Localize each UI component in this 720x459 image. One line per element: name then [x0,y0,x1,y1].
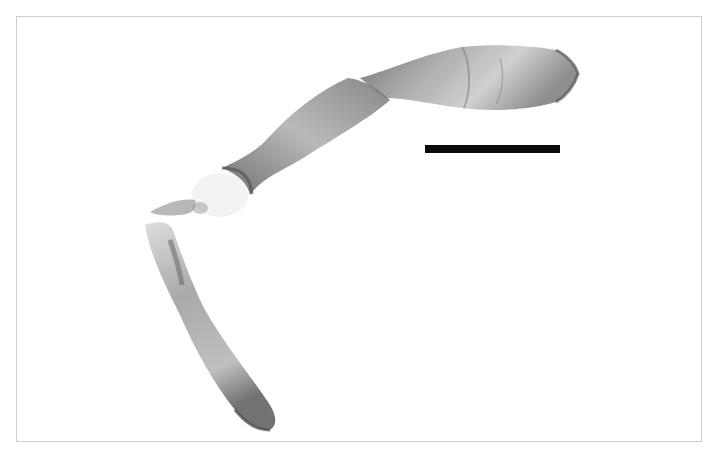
specimen-arm [145,222,275,430]
scale-bar [425,145,560,153]
specimen-image [0,0,720,459]
